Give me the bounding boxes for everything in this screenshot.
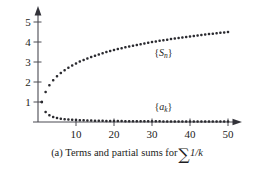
data-point bbox=[82, 119, 85, 122]
data-point bbox=[136, 44, 139, 47]
data-point bbox=[196, 120, 199, 123]
data-point bbox=[151, 120, 154, 123]
data-point bbox=[200, 120, 203, 123]
data-point bbox=[52, 116, 55, 119]
data-point bbox=[227, 120, 230, 123]
x-axis-arrow-icon bbox=[233, 119, 243, 126]
y-axis-arrow-icon bbox=[35, 6, 42, 16]
data-point bbox=[219, 120, 222, 123]
data-point bbox=[113, 120, 116, 123]
data-point bbox=[200, 34, 203, 37]
data-point bbox=[67, 66, 70, 69]
data-point bbox=[109, 120, 112, 123]
data-point bbox=[113, 49, 116, 52]
data-point bbox=[90, 119, 93, 122]
data-point bbox=[132, 120, 135, 123]
y-tick-label-3: 3 bbox=[25, 56, 31, 68]
data-point bbox=[189, 120, 192, 123]
data-point bbox=[193, 120, 196, 123]
data-point bbox=[132, 44, 135, 47]
data-point bbox=[219, 32, 222, 35]
data-point bbox=[139, 120, 142, 123]
data-point bbox=[48, 114, 51, 117]
x-tick-label-20: 20 bbox=[109, 128, 121, 140]
data-point bbox=[196, 34, 199, 37]
data-point bbox=[75, 62, 78, 65]
data-point bbox=[60, 117, 63, 120]
data-point bbox=[158, 120, 161, 123]
data-point bbox=[143, 120, 146, 123]
data-point bbox=[204, 120, 207, 123]
data-point bbox=[177, 37, 180, 40]
data-point bbox=[56, 117, 59, 120]
data-point bbox=[52, 79, 55, 82]
data-point bbox=[71, 64, 74, 67]
y-tick-label-2: 2 bbox=[25, 76, 31, 88]
data-point bbox=[56, 75, 59, 78]
data-point bbox=[170, 38, 173, 41]
figure-caption: (a) Terms and partial sums for∑1/k bbox=[0, 146, 254, 164]
data-point bbox=[155, 120, 158, 123]
data-point bbox=[63, 118, 66, 121]
data-point bbox=[147, 120, 150, 123]
data-point bbox=[208, 120, 211, 123]
data-point bbox=[212, 32, 215, 35]
data-point bbox=[189, 35, 192, 38]
y-axis-tick-labels: 12345 bbox=[25, 16, 31, 108]
data-point bbox=[155, 40, 158, 43]
data-point bbox=[177, 120, 180, 123]
caption-prefix: (a) Terms and partial sums for bbox=[51, 147, 178, 158]
data-point bbox=[117, 48, 120, 51]
data-point bbox=[117, 120, 120, 123]
data-point bbox=[223, 120, 226, 123]
data-point bbox=[60, 72, 63, 75]
data-point bbox=[94, 119, 97, 122]
y-tick-label-1: 1 bbox=[25, 96, 31, 108]
data-point bbox=[120, 47, 123, 50]
data-point bbox=[67, 118, 70, 121]
figure-container: 12345 1020304050 {Sn}{ak} (a) Terms and … bbox=[0, 0, 254, 172]
data-point bbox=[212, 120, 215, 123]
data-point bbox=[101, 120, 104, 123]
data-point bbox=[94, 54, 97, 57]
data-point bbox=[204, 33, 207, 36]
data-point bbox=[82, 59, 85, 62]
data-point bbox=[128, 45, 131, 48]
data-point bbox=[215, 120, 218, 123]
series-label-S: {Sn} bbox=[154, 47, 172, 60]
data-point bbox=[181, 36, 184, 39]
data-point bbox=[185, 36, 188, 39]
data-point bbox=[223, 31, 226, 33]
data-point bbox=[208, 33, 211, 36]
data-point bbox=[86, 119, 89, 122]
x-tick-label-50: 50 bbox=[223, 128, 235, 140]
data-point bbox=[75, 119, 78, 122]
data-point bbox=[44, 91, 47, 94]
data-point bbox=[124, 120, 127, 123]
data-point bbox=[162, 120, 165, 123]
series-label-a: {ak} bbox=[154, 101, 172, 114]
data-point bbox=[41, 101, 44, 104]
data-point bbox=[158, 40, 161, 43]
data-point bbox=[174, 120, 177, 123]
series-terms bbox=[41, 101, 230, 123]
series-annotations: {Sn}{ak} bbox=[154, 47, 172, 114]
data-point bbox=[86, 57, 89, 60]
data-point bbox=[185, 120, 188, 123]
data-point bbox=[101, 52, 104, 55]
data-point bbox=[136, 120, 139, 123]
data-point bbox=[215, 32, 218, 35]
data-point bbox=[79, 119, 82, 122]
data-point bbox=[48, 84, 51, 87]
x-tick-label-10: 10 bbox=[71, 128, 83, 140]
data-point bbox=[147, 42, 150, 45]
data-point bbox=[227, 31, 230, 34]
series-partial-sums bbox=[41, 31, 230, 103]
data-point bbox=[143, 42, 146, 45]
data-point bbox=[162, 39, 165, 42]
y-tick-label-4: 4 bbox=[25, 36, 31, 48]
data-point bbox=[44, 111, 47, 114]
data-point bbox=[105, 120, 108, 123]
data-point bbox=[105, 51, 108, 54]
data-point bbox=[120, 120, 123, 123]
